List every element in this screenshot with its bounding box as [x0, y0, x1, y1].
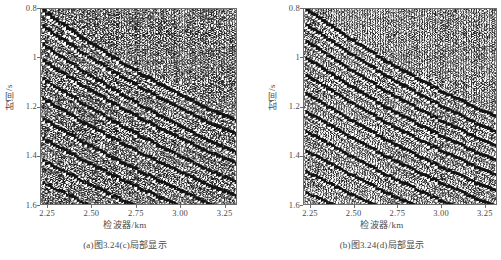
- panel-caption-a: (a)图3.24(c)局部显示: [0, 238, 250, 251]
- seismic-figure: 0.811.21.41.6 时间/s 2.252.502.753.003.25 …: [0, 0, 501, 260]
- x-tick-label: 2.25: [302, 209, 318, 218]
- y-tick-label: 0.8: [26, 4, 37, 13]
- x-tick-label: 2.25: [39, 209, 55, 218]
- x-tick-label: 3.00: [172, 209, 188, 218]
- x-tick-mark: [136, 205, 137, 208]
- panel-b: 0.811.21.41.6 时间/s 2.252.502.753.003.25 …: [251, 0, 501, 260]
- x-tick-mark: [441, 205, 442, 208]
- panel-caption-b: (b)图3.24(d)局部显示: [257, 238, 501, 251]
- y-tick-label: 0.8: [289, 4, 300, 13]
- x-tick-label: 2.50: [346, 209, 362, 218]
- x-axis-title-a: 检波器/km: [0, 218, 250, 231]
- y-axis-title-a: 时间/s: [2, 84, 15, 110]
- x-tick-mark: [47, 205, 48, 208]
- seismic-wiggle-canvas-b: [304, 9, 496, 204]
- x-tick-label: 3.25: [217, 209, 233, 218]
- x-tick-label: 2.75: [390, 209, 406, 218]
- y-tick-label: 1.2: [26, 102, 37, 111]
- x-tick-label: 2.50: [84, 209, 100, 218]
- panel-a: 0.811.21.41.6 时间/s 2.252.502.753.003.25 …: [0, 0, 250, 260]
- y-axis-title-b: 时间/s: [265, 84, 278, 110]
- x-tick-mark: [485, 205, 486, 208]
- x-tick-mark: [91, 205, 92, 208]
- x-tick-mark: [354, 205, 355, 208]
- y-tick-label: 1.2: [289, 102, 300, 111]
- x-tick-mark: [397, 205, 398, 208]
- x-tick-label: 3.25: [477, 209, 493, 218]
- x-tick-label: 3.00: [433, 209, 449, 218]
- x-tick-mark: [225, 205, 226, 208]
- y-tick-label: 1.4: [26, 151, 37, 160]
- x-tick-mark: [310, 205, 311, 208]
- x-tick-mark: [180, 205, 181, 208]
- x-tick-label: 2.75: [128, 209, 144, 218]
- x-axis-title-b: 检波器/km: [257, 218, 501, 231]
- plot-area-a: [40, 8, 237, 205]
- y-tick-label: 1.4: [289, 151, 300, 160]
- seismic-wiggle-canvas-a: [41, 9, 236, 204]
- plot-area-b: [303, 8, 497, 205]
